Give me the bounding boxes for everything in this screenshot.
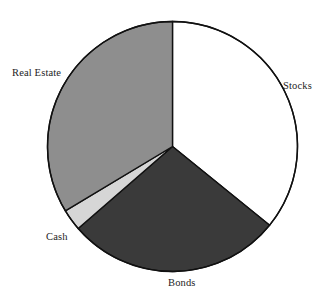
pie-label-real-estate: Real Estate — [12, 67, 61, 79]
pie-chart-figure: Real Estate Stocks Cash Bonds — [0, 0, 332, 301]
pie-label-stocks: Stocks — [283, 80, 312, 92]
pie-label-bonds: Bonds — [168, 277, 196, 289]
pie-slices — [47, 21, 297, 271]
pie-label-cash: Cash — [46, 231, 68, 243]
pie-chart-canvas — [0, 0, 332, 301]
